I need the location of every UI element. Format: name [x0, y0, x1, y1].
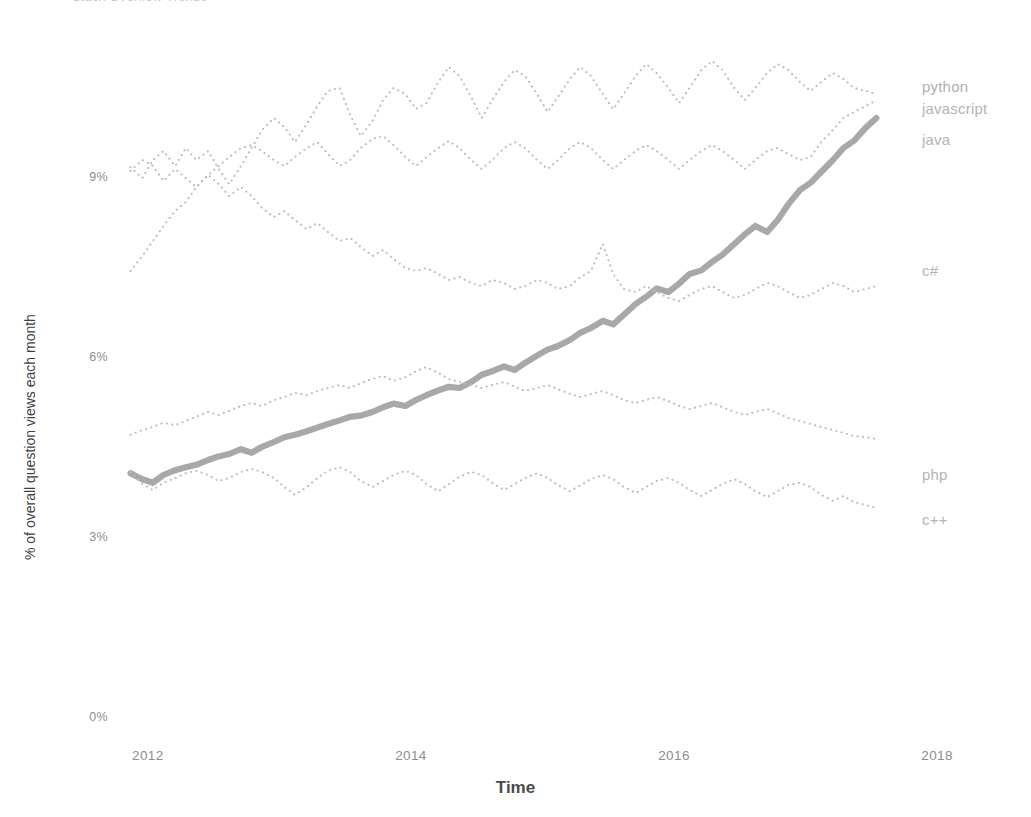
x-tick-2018: 2018: [897, 748, 977, 763]
x-tick-2014: 2014: [371, 748, 451, 763]
series-line-python: [131, 118, 877, 483]
series-label-c-: c#: [922, 262, 938, 279]
series-line-java: [131, 100, 877, 271]
y-tick-0pct: 0%: [48, 710, 108, 724]
y-tick-6pct: 6%: [48, 350, 108, 364]
series-line-javascript: [131, 61, 877, 184]
series-label-javascript: javascript: [922, 100, 987, 117]
y-axis-title: % of overall question views each month: [22, 140, 38, 560]
series-label-c-: c++: [922, 511, 948, 528]
x-axis-title-text: Time: [496, 778, 535, 798]
series-label-java: java: [922, 131, 950, 148]
y-tick-9pct: 9%: [48, 170, 108, 184]
chart-plot-area: [0, 0, 1031, 817]
x-tick-2012: 2012: [108, 748, 188, 763]
y-tick-3pct: 3%: [48, 530, 108, 544]
x-tick-2016: 2016: [634, 748, 714, 763]
chart-container: Stack Overflow Trends 0%3%6%9% 201220142…: [0, 0, 1031, 817]
series-label-php: php: [922, 466, 948, 483]
x-axis-title: Time: [0, 778, 1031, 798]
series-line-c-: [131, 467, 877, 508]
series-line-php: [131, 367, 877, 439]
series-label-python: python: [922, 78, 968, 95]
